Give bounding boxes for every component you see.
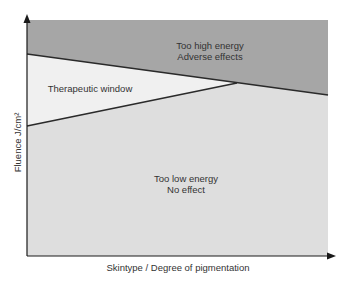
region-high-label: Too high energy Adverse effects bbox=[150, 40, 270, 62]
region-low-line1: Too low energy bbox=[126, 173, 246, 184]
region-low-label: Too low energy No effect bbox=[126, 173, 246, 195]
region-window-label: Therapeutic window bbox=[40, 83, 140, 94]
y-axis-arrow-icon bbox=[24, 14, 31, 23]
region-low-line2: No effect bbox=[126, 184, 246, 195]
y-axis-label: Fluence J/cm² bbox=[12, 98, 23, 188]
region-high-line1: Too high energy bbox=[150, 40, 270, 51]
x-axis-arrow-icon bbox=[327, 253, 336, 260]
x-axis-label: Skintype / Degree of pigmentation bbox=[78, 262, 278, 273]
region-high-line2: Adverse effects bbox=[150, 51, 270, 62]
